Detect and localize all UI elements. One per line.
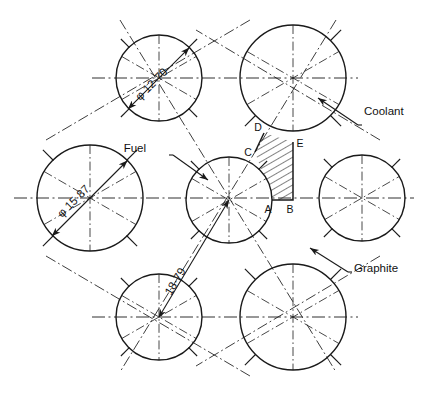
drawing-background xyxy=(0,0,427,394)
vertex-label-d: D xyxy=(254,121,262,133)
label-graphite: Graphite xyxy=(354,262,398,274)
vertex-label-a: A xyxy=(264,203,271,215)
vertex-label-e: E xyxy=(296,137,303,149)
technical-drawing-canvas: φ 12·70 φ 15·87 18·79 Coolant Graphite xyxy=(0,0,427,394)
lattice-cross-section-svg: φ 12·70 φ 15·87 18·79 Coolant Graphite xyxy=(0,0,427,394)
vertex-label-b: B xyxy=(286,203,293,215)
vertex-label-c: C xyxy=(244,146,252,158)
label-coolant: Coolant xyxy=(364,105,404,117)
label-fuel: Fuel xyxy=(124,142,146,154)
